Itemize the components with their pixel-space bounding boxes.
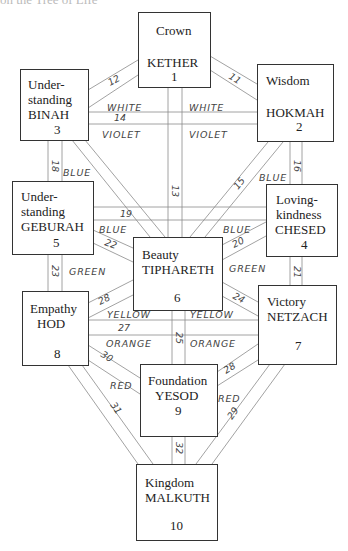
yesod-virtue: Foundation: [148, 373, 207, 388]
kether-name: KETHER: [147, 55, 198, 70]
color-label-white-right: WHITE: [189, 102, 224, 113]
path-number-28: 28: [221, 360, 237, 376]
color-label-red-right: RED: [218, 393, 240, 404]
node-hokmah: Wisdom HOKMAH 2: [257, 64, 334, 142]
color-label-green-right: GREEN: [229, 263, 266, 274]
path-number-31: 31: [108, 400, 124, 416]
hod-number: 8: [54, 346, 61, 361]
path-number-16: 16: [292, 160, 303, 172]
path-number-25: 25: [174, 332, 185, 344]
color-label-violet-left: VIOLET: [102, 129, 141, 140]
binah-virtue-line1: Under-: [28, 77, 65, 92]
netzach-virtue: Victory: [267, 294, 306, 309]
path-number-18: 18: [50, 160, 61, 172]
hokmah-number: 2: [296, 119, 303, 134]
chesed-virtue-line2: kindness: [276, 207, 322, 222]
netzach-name: NETZACH: [267, 309, 328, 324]
node-binah: Under- standing BINAH 3: [20, 69, 89, 141]
node-malkuth: Kingdom MALKUTH 10: [136, 464, 218, 541]
tiphareth-virtue: Beauty: [142, 247, 179, 262]
chesed-number: 4: [301, 237, 308, 252]
geburah-name: GEBURAH: [21, 219, 84, 234]
yesod-name: YESOD: [155, 388, 198, 403]
hokmah-virtue: Wisdom: [266, 73, 310, 88]
chesed-virtue-line1: Loving-: [276, 192, 318, 207]
tiphareth-number: 6: [174, 290, 181, 305]
color-label-white-left: WHITE: [107, 102, 142, 113]
node-tiphareth: Beauty TIPHARETH 6: [133, 237, 223, 311]
malkuth-name: MALKUTH: [145, 490, 210, 505]
chesed-name: CHESED: [275, 222, 326, 237]
node-kether: Crown KETHER 1: [138, 12, 211, 88]
path-number-32: 32: [174, 442, 185, 454]
tiphareth-name: TIPHARETH: [142, 262, 214, 277]
geburah-virtue-line2: standing: [21, 204, 65, 219]
color-label-blue-22: BLUE: [99, 224, 127, 235]
binah-name: BINAH: [28, 107, 69, 122]
netzach-number: 7: [295, 338, 302, 353]
color-label-blue-16: BLUE: [259, 172, 287, 183]
node-netzach: Victory NETZACH 7: [258, 285, 337, 365]
path-number-26: 28: [96, 292, 112, 307]
color-label-blue-20: BLUE: [223, 224, 251, 235]
path-number-14: 14: [114, 112, 126, 123]
path-number-27: 27: [118, 322, 130, 333]
node-chesed: Loving- kindness CHESED 4: [266, 184, 338, 257]
path-number-24: 24: [231, 290, 247, 305]
geburah-virtue-line1: Under-: [21, 189, 58, 204]
color-label-red-left: RED: [110, 380, 132, 391]
hokmah-name: HOKMAH: [266, 105, 325, 120]
path-number-12: 12: [106, 72, 122, 87]
malkuth-number: 10: [170, 518, 183, 533]
kether-number: 1: [171, 69, 178, 84]
path-number-13: 13: [170, 185, 181, 197]
node-geburah: Under- standing GEBURAH 5: [12, 181, 94, 255]
color-label-green-left: GREEN: [69, 266, 106, 277]
yesod-number: 9: [175, 403, 182, 418]
path-number-19: 19: [120, 208, 132, 219]
color-label-orange-right: ORANGE: [190, 338, 236, 349]
binah-virtue-line2: standing: [28, 92, 72, 107]
color-label-violet-right: VIOLET: [189, 129, 228, 140]
node-hod: Empathy HOD 8: [22, 291, 89, 366]
hod-name: HOD: [37, 316, 65, 331]
kether-virtue: Crown: [156, 23, 191, 38]
path-number-30: 30: [99, 348, 115, 364]
color-label-blue-18: BLUE: [63, 167, 91, 178]
geburah-number: 5: [53, 235, 60, 250]
path-number-20: 20: [230, 235, 246, 250]
path-number-23: 23: [50, 265, 61, 277]
hod-virtue: Empathy: [30, 301, 77, 316]
binah-number: 3: [54, 122, 61, 137]
path-number-21: 21: [292, 266, 303, 278]
path-number-11: 11: [227, 70, 243, 86]
malkuth-virtue: Kingdom: [145, 475, 194, 490]
color-label-orange-left: ORANGE: [106, 338, 152, 349]
node-yesod: Foundation YESOD 9: [140, 364, 218, 437]
